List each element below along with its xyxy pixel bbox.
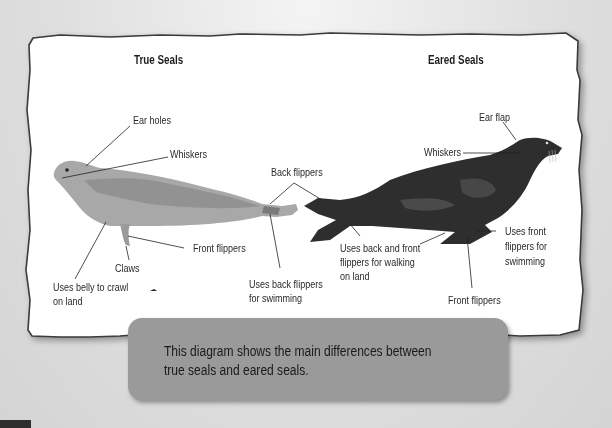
eared-seals-title: Eared Seals xyxy=(428,54,484,67)
label-back-swim-1: Uses back flippers xyxy=(249,278,323,291)
label-front-swim-3: swimming xyxy=(505,255,545,268)
label-belly-crawl-1: Uses belly to crawl xyxy=(53,281,128,294)
diagram-stage: True Seals Eared Seals Ear holes Whisker… xyxy=(0,0,612,428)
caption-box: This diagram shows the main differences … xyxy=(128,318,508,400)
label-claws: Claws xyxy=(115,262,140,275)
caption-line-1: This diagram shows the main differences … xyxy=(164,342,431,361)
label-front-swim-2: flippers for xyxy=(505,240,547,253)
label-front-swim-1: Uses front xyxy=(505,225,546,238)
caption-text: This diagram shows the main differences … xyxy=(164,342,431,380)
label-walk-2: flippers for walking xyxy=(340,256,415,269)
label-true-front-flippers: Front flippers xyxy=(193,242,246,255)
label-true-whiskers: Whiskers xyxy=(170,148,207,161)
caption-line-2: true seals and eared seals. xyxy=(164,361,431,380)
label-belly-crawl-2: on land xyxy=(53,295,83,308)
label-back-swim-2: for swimming xyxy=(249,292,302,305)
true-seals-title: True Seals xyxy=(134,54,183,67)
label-ear-holes: Ear holes xyxy=(133,114,171,127)
label-walk-1: Uses back and front xyxy=(340,242,420,255)
label-eared-whiskers: Whiskers xyxy=(424,146,461,159)
label-eared-front-flippers: Front flippers xyxy=(448,294,501,307)
page-corner-mark xyxy=(0,420,31,428)
label-ear-flap: Ear flap xyxy=(479,111,510,124)
label-walk-3: on land xyxy=(340,270,370,283)
label-back-flippers: Back flippers xyxy=(271,166,323,179)
